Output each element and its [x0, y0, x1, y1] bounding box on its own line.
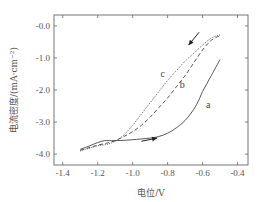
- x-tick-label: -0.4: [230, 168, 245, 178]
- x-tick-label: -0.8: [160, 168, 175, 178]
- y-tick-label: -4.0: [36, 149, 51, 159]
- series-line-b: [80, 36, 220, 151]
- x-axis: -1.4-1.2-1.0-0.8-0.6-0.4: [56, 15, 246, 178]
- y-axis: -0.0-1.0-2.0-3.0-4.0: [36, 21, 248, 159]
- series-line-a: [80, 60, 220, 150]
- plot-frame: [54, 15, 248, 165]
- y-tick-label: -1.0: [36, 53, 51, 63]
- x-tick-label: -1.0: [126, 168, 141, 178]
- y-tick-label: -0.0: [36, 21, 51, 31]
- series-group: [80, 35, 220, 151]
- y-tick-label: -2.0: [36, 85, 51, 95]
- x-tick-label: -1.2: [91, 168, 105, 178]
- series-line-c: [80, 35, 220, 151]
- y-tick-label: -3.0: [36, 117, 51, 127]
- x-tick-label: -1.4: [56, 168, 71, 178]
- arrows-group: [141, 32, 199, 141]
- curve-label-c: c: [161, 68, 166, 79]
- curve-label-a: a: [206, 99, 211, 110]
- x-axis-title: 电位/V: [137, 187, 165, 198]
- x-tick-label: -0.6: [195, 168, 210, 178]
- chart: -1.4-1.2-1.0-0.8-0.6-0.4 -0.0-1.0-2.0-3.…: [0, 0, 265, 202]
- y-axis-title: 电流密度/(mA·cm⁻²): [8, 47, 19, 133]
- curve-label-b: b: [180, 79, 185, 90]
